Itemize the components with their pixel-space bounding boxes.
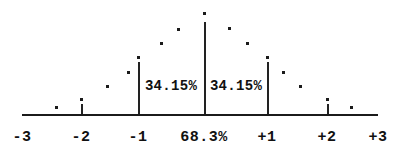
curve-dot: [350, 106, 353, 109]
stem-center: [204, 22, 206, 114]
axis-label-minus-3: -3: [12, 130, 31, 145]
curve-dot: [106, 85, 109, 88]
curve-dot: [55, 106, 58, 109]
stem-plus-2: [327, 104, 329, 114]
curve-dot: [326, 98, 329, 101]
curve-dot: [299, 85, 302, 88]
axis-label-plus-3: +3: [368, 130, 387, 145]
axis-label-minus-1: -1: [128, 130, 147, 145]
curve-dot: [228, 27, 231, 30]
axis-label-plus-1: +1: [257, 130, 276, 145]
horizontal-axis-line: [22, 114, 378, 116]
region-label-right-34: 34.15%: [210, 79, 262, 93]
normal-distribution-figure: -3-2-168.3%+1+2+3 34.15%34.15%: [0, 0, 412, 157]
axis-label-minus-2: -2: [71, 130, 90, 145]
curve-dot: [160, 42, 163, 45]
region-label-left-34: 34.15%: [145, 79, 197, 93]
curve-dot: [282, 71, 285, 74]
curve-dot: [203, 12, 206, 15]
curve-dot: [177, 28, 180, 31]
curve-dot: [80, 98, 83, 101]
stem-minus-1: [138, 62, 140, 114]
curve-dot: [137, 56, 140, 59]
axis-label-plus-2: +2: [317, 130, 336, 145]
axis-label-center-percent: 68.3%: [180, 130, 228, 145]
stem-minus-2: [81, 104, 83, 114]
curve-dot: [266, 56, 269, 59]
curve-dot: [246, 42, 249, 45]
stem-plus-1: [267, 62, 269, 114]
curve-dot: [127, 71, 130, 74]
